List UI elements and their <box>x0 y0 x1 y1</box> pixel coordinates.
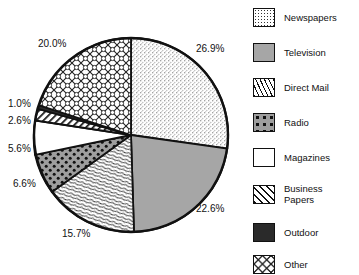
pie-slice-television <box>131 135 227 232</box>
legend-swatch-direct-mail-icon <box>253 78 275 97</box>
legend-label-outdoor: Outdoor <box>284 227 318 238</box>
legend-label-direct-mail: Direct Mail <box>284 82 329 93</box>
pie-label-direct-mail: 15.7% <box>62 228 90 239</box>
legend-item-other[interactable]: Other <box>253 255 308 274</box>
legend-swatch-other-icon <box>253 255 275 274</box>
legend-label-business-papers: Business Papers <box>284 183 323 205</box>
pie-label-television: 22.6% <box>196 203 224 214</box>
legend-label-newspapers: Newspapers <box>284 12 337 23</box>
pie-label-radio: 6.6% <box>13 178 36 189</box>
legend-swatch-outdoor-icon <box>253 223 275 242</box>
legend-item-outdoor[interactable]: Outdoor <box>253 223 318 242</box>
legend-swatch-television-icon <box>253 43 275 62</box>
legend-item-radio[interactable]: Radio <box>253 113 309 132</box>
legend-label-magazines: Magazines <box>284 152 330 163</box>
pie-slice-newspapers <box>131 38 228 149</box>
pie-label-newspapers: 26.9% <box>196 43 224 54</box>
pie-label-magazines: 5.6% <box>8 143 31 154</box>
legend-item-direct-mail[interactable]: Direct Mail <box>253 78 329 97</box>
legend-swatch-newspapers-icon <box>253 8 275 27</box>
legend-label-radio: Radio <box>284 117 309 128</box>
legend: Newspapers Television Direct Mail Radio … <box>253 5 359 271</box>
pie-label-business-papers: 2.6% <box>8 115 31 126</box>
legend-label-other: Other <box>284 259 308 270</box>
legend-item-newspapers[interactable]: Newspapers <box>253 8 337 27</box>
legend-item-television[interactable]: Television <box>253 43 326 62</box>
legend-label-television: Television <box>284 47 326 58</box>
pie-label-other: 20.0% <box>38 38 66 49</box>
legend-swatch-radio-icon <box>253 113 275 132</box>
legend-swatch-business-papers-icon <box>253 185 275 204</box>
legend-swatch-magazines-icon <box>253 148 275 167</box>
legend-item-business-papers[interactable]: Business Papers <box>253 183 323 205</box>
legend-item-magazines[interactable]: Magazines <box>253 148 330 167</box>
pie-svg <box>0 0 240 271</box>
pie-label-outdoor: 1.0% <box>8 98 31 109</box>
pie-chart-area: 26.9% 22.6% 15.7% 6.6% 5.6% 2.6% 1.0% 20… <box>0 0 240 271</box>
